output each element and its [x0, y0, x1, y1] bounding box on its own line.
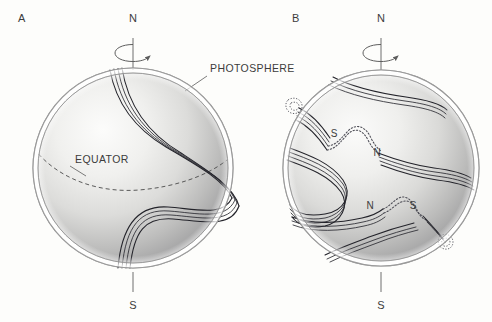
rotation-direction-arrow-b — [363, 45, 397, 62]
north-pole-label-a: N — [129, 12, 137, 24]
diagram-canvas: A N EQUATOR PHOTOSPHERE — [0, 0, 492, 322]
solar-dynamo-diagram: A N EQUATOR PHOTOSPHERE — [0, 0, 492, 322]
panel-b-letter: B — [292, 12, 300, 24]
photosphere-label-a: PHOTOSPHERE — [210, 62, 295, 74]
panel-a-letter: A — [18, 12, 26, 24]
panel-a: A N EQUATOR PHOTOSPHERE — [18, 12, 295, 311]
limb-highlight-b — [283, 70, 479, 266]
rotation-direction-arrow-a — [115, 45, 149, 62]
limb-kink-upper-left-b — [286, 98, 302, 113]
limb-kink-blob-b-2 — [290, 102, 299, 110]
south-pole-label-a: S — [129, 299, 136, 311]
north-pole-label-b: N — [377, 12, 385, 24]
panel-b: B N N ===== --> S N — [283, 12, 479, 311]
south-pole-label-b: S — [377, 299, 384, 311]
limb-highlight-a — [33, 68, 233, 268]
limb-kink-blob-b-1 — [286, 98, 302, 113]
